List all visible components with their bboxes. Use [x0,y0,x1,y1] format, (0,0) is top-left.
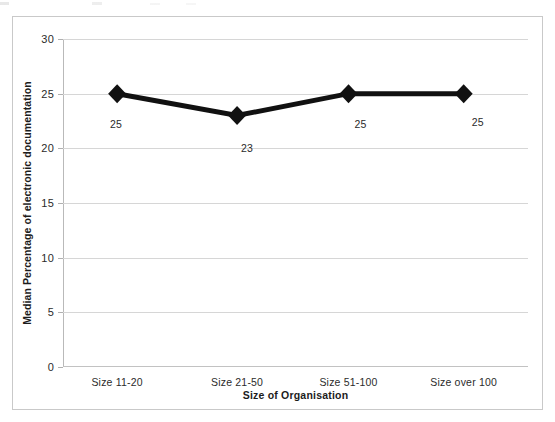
y-tick-mark [58,367,63,368]
y-axis-title-text: Median Percentage of electronic document… [21,81,33,325]
y-tick-label: 15 [41,197,54,209]
data-point-marker [228,106,246,125]
scan-artifact-strip [0,0,555,14]
series-polyline [117,94,464,116]
data-point-label: 25 [110,118,122,130]
y-tick-label: 20 [41,142,54,154]
y-tick-label: 25 [41,88,54,100]
x-axis-title: Size of Organisation [63,389,528,401]
data-point-marker [340,84,358,103]
y-tick-label: 0 [48,361,54,373]
plot-area: 051015202530 Size 11-20Size 21-50Size 51… [63,39,528,367]
data-point-label: 25 [354,118,366,130]
data-point-marker [108,84,126,103]
x-tick-label: Size 51-100 [319,376,377,388]
chart-figure-frame: Median Percentage of electronic document… [12,16,543,410]
chart-canvas: Median Percentage of electronic document… [13,17,544,411]
data-point-label: 25 [472,116,484,128]
x-tick-label: Size 11-20 [91,376,142,388]
y-axis-title: Median Percentage of electronic document… [19,39,35,367]
y-tick-label: 10 [41,252,54,264]
y-tick-label: 5 [48,306,54,318]
data-point-marker [455,84,473,103]
x-tick-label: Size 21-50 [211,376,263,388]
y-tick-label: 30 [41,33,54,45]
data-point-label: 23 [241,142,253,154]
x-tick-label: Size over 100 [430,376,497,388]
data-series-line [63,39,528,367]
